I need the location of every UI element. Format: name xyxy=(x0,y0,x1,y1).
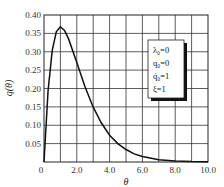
svg-text:0.40: 0.40 xyxy=(25,10,41,20)
svg-text:0.30: 0.30 xyxy=(25,47,41,57)
svg-text:0.25: 0.25 xyxy=(25,65,41,75)
y-axis-label: q(θ) xyxy=(3,79,15,96)
svg-text:8.0: 8.0 xyxy=(170,165,182,175)
x-axis-label: θ xyxy=(124,176,129,187)
legend-qdot0: q̇₀=1 xyxy=(153,71,169,81)
y-axis-ticks: 0.05 0.10 0.15 0.20 0.25 0.30 0.35 0.40 xyxy=(25,10,41,149)
legend-q0: q₀=0 xyxy=(153,58,169,68)
svg-text:0.15: 0.15 xyxy=(25,102,41,112)
svg-text:6.0: 6.0 xyxy=(137,165,149,175)
svg-text:2.0: 2.0 xyxy=(71,165,83,175)
legend-xi: ξ=1 xyxy=(153,84,166,94)
chart: λ₀=0 q₀=0 q̇₀=1 ξ=1 0.05 0.10 0.15 0.20 … xyxy=(0,0,224,187)
svg-text:0: 0 xyxy=(39,165,44,175)
svg-text:0.20: 0.20 xyxy=(25,84,41,94)
legend: λ₀=0 q₀=0 q̇₀=1 ξ=1 xyxy=(148,40,187,101)
x-axis-ticks: 0 2.0 4.0 6.0 8.0 10.0 xyxy=(39,165,217,175)
svg-text:0.05: 0.05 xyxy=(25,139,41,149)
svg-text:10.0: 10.0 xyxy=(200,165,216,175)
legend-lambda0: λ₀=0 xyxy=(153,45,169,55)
svg-text:0.10: 0.10 xyxy=(25,120,41,130)
svg-text:4.0: 4.0 xyxy=(104,165,116,175)
svg-text:0.35: 0.35 xyxy=(25,28,41,38)
